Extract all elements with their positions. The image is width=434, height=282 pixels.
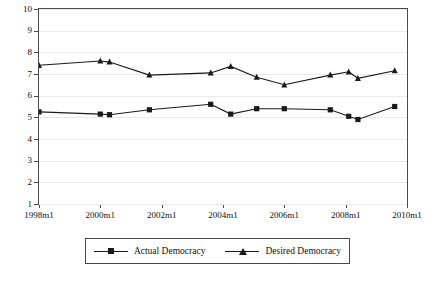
- plot-area: [38, 8, 408, 205]
- triangle-marker-icon: [225, 246, 259, 256]
- data-point-marker: [228, 63, 234, 69]
- data-point-marker: [228, 112, 233, 117]
- y-tick-label: 10: [0, 5, 32, 14]
- data-point-marker: [107, 112, 112, 117]
- legend-entry-actual-democracy: Actual Democracy: [94, 246, 205, 256]
- y-tick-label: 1: [0, 200, 32, 209]
- data-point-marker: [254, 106, 259, 111]
- x-tick-label: 1998m1: [11, 211, 67, 220]
- square-marker-icon: [94, 246, 128, 256]
- y-tick-label: 7: [0, 70, 32, 79]
- chart-legend: Actual Democracy Desired Democracy: [85, 238, 350, 264]
- y-tick-label: 5: [0, 113, 32, 122]
- x-tick-label: 2010m1: [379, 211, 434, 220]
- gridline: [39, 204, 407, 205]
- legend-label-desired-democracy: Desired Democracy: [265, 246, 341, 256]
- data-point-marker: [328, 107, 333, 112]
- data-point-marker: [282, 106, 287, 111]
- data-point-marker: [346, 68, 352, 74]
- y-tick-label: 9: [0, 26, 32, 35]
- y-tick-label: 3: [0, 156, 32, 165]
- x-tick-label: 2000m1: [72, 211, 128, 220]
- x-tick-label: 2002m1: [134, 211, 190, 220]
- data-point-marker: [147, 107, 152, 112]
- legend-entry-desired-democracy: Desired Democracy: [225, 246, 341, 256]
- x-tick-label: 2004m1: [195, 211, 251, 220]
- data-point-marker: [392, 104, 397, 109]
- legend-label-actual-democracy: Actual Democracy: [134, 246, 205, 256]
- series-lines: [39, 9, 407, 204]
- y-tick-label: 2: [0, 178, 32, 187]
- y-tick-label: 8: [0, 48, 32, 57]
- y-tick-label: 6: [0, 91, 32, 100]
- series-line-desired: [39, 61, 395, 85]
- x-tick-label: 2006m1: [256, 211, 312, 220]
- data-point-marker: [208, 102, 213, 107]
- data-point-marker: [39, 109, 42, 114]
- data-point-marker: [392, 67, 398, 73]
- data-point-marker: [98, 112, 103, 117]
- chart-container: 12345678910 1998m12000m12002m12004m12006…: [0, 0, 434, 282]
- y-tick-label: 4: [0, 135, 32, 144]
- x-tick-label: 2008m1: [318, 211, 374, 220]
- data-point-marker: [97, 58, 103, 64]
- series-line-actual: [39, 104, 395, 119]
- data-point-marker: [355, 117, 360, 122]
- data-point-marker: [346, 114, 351, 119]
